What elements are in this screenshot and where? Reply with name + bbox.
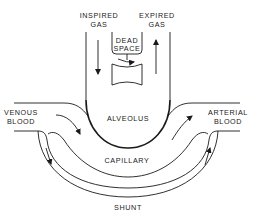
alveolus-shunt-diagram: INSPIRED GAS EXPIRED GAS DEAD SPACE ALVE… <box>0 0 254 221</box>
alveolus-label: ALVEOLUS <box>107 114 149 123</box>
svg-text:ARTERIAL: ARTERIAL <box>208 108 248 117</box>
capillary-label: CAPILLARY <box>105 156 150 165</box>
svg-text:BLOOD: BLOOD <box>214 117 242 126</box>
expired-gas-label: EXPIRED GAS <box>139 11 175 29</box>
shunt-label: SHUNT <box>114 203 142 212</box>
arterial-flow-arrow <box>172 116 192 140</box>
svg-text:SPACE: SPACE <box>114 44 141 53</box>
venous-blood-label: VENOUS BLOOD <box>4 108 38 126</box>
svg-text:GAS: GAS <box>149 20 166 29</box>
dead-space: DEAD SPACE <box>112 32 142 85</box>
svg-text:EXPIRED: EXPIRED <box>139 11 175 20</box>
inspired-gas-label: INSPIRED GAS <box>80 11 119 29</box>
arterial-blood-label: ARTERIAL BLOOD <box>208 108 248 126</box>
venous-flow-arrow <box>56 115 80 134</box>
shunt-in-arrow <box>46 148 51 164</box>
svg-text:GAS: GAS <box>91 20 108 29</box>
svg-text:BLOOD: BLOOD <box>7 117 35 126</box>
svg-text:VENOUS: VENOUS <box>4 108 38 117</box>
svg-text:INSPIRED: INSPIRED <box>80 11 119 20</box>
